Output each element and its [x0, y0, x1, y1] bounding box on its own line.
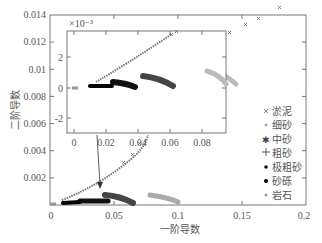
y-tick-label: 0.004: [24, 145, 47, 156]
y-tick-label: 0.002: [24, 172, 47, 183]
legend-label: 粗砂: [272, 147, 292, 159]
legend-label: 淤泥: [272, 105, 292, 117]
inset-plot-frame: [67, 31, 226, 133]
inset-y-tick-label: 0: [58, 83, 63, 94]
inset-y-tick-label: 2: [58, 52, 63, 63]
legend-marker-x-icon: [264, 109, 268, 113]
inset-x-tick-label: 0.04: [129, 137, 147, 148]
y-tick-label: 0.01: [29, 64, 47, 75]
inset-x-tick-label: 0.08: [193, 137, 211, 148]
inset-x-tick-label: 0.06: [161, 137, 179, 148]
legend-marker-dot-icon: [264, 179, 268, 183]
y-tick-label: 0.006: [24, 118, 47, 129]
x-tick-label: 0.05: [105, 210, 123, 221]
inset-y-tick-label: -2: [55, 113, 63, 124]
y-axis-title: 二阶导数: [9, 90, 21, 130]
inset-multiplier: ×10⁻³: [69, 18, 93, 29]
y-tick-label: 0.014: [24, 9, 47, 20]
legend-label: 细砂: [272, 119, 292, 131]
legend-label: 中砂: [272, 133, 292, 145]
legend-label: 极粗砂: [272, 161, 302, 173]
arrow-head-icon: [97, 182, 103, 189]
x-axis-title: 一阶导数: [160, 223, 200, 235]
legend: 淤泥 细砂 ✱ 中砂 粗砂 极粗砂 砂砾 岩石: [262, 105, 302, 201]
x-tick-label: 0: [49, 210, 54, 221]
inset-x-tick-label: 0.02: [97, 137, 115, 148]
x-tick-label: 0.15: [233, 210, 251, 221]
legend-marker-dot-icon: [265, 124, 268, 127]
legend-label: 岩石: [272, 189, 292, 201]
series-fine-sand-main: [150, 195, 178, 202]
x-tick-label: 0.2: [298, 210, 311, 221]
series-gravel-main: [63, 202, 80, 203]
inset-x-tick-label: 0: [72, 137, 77, 148]
legend-marker-dot-icon: [264, 165, 268, 169]
x-tick-label: 0.1: [172, 210, 185, 221]
y-tick-label: 0.008: [24, 91, 47, 102]
y-tick-label: 0.012: [24, 36, 47, 47]
legend-label: 砂砾: [272, 175, 292, 187]
legend-marker-plus-icon: [262, 148, 270, 156]
scatter-chart: 0.002 0.004 0.006 0.008 0.01 0.012 0.014…: [0, 0, 322, 243]
legend-marker-star-icon: ✱: [262, 135, 270, 145]
legend-marker-dot-icon: [265, 194, 268, 197]
